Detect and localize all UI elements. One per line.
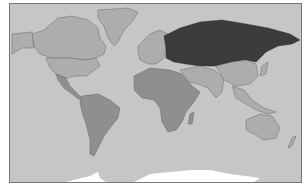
mexico-central-america [56,74,82,100]
europe [138,30,168,64]
south-america [80,94,120,156]
alaska [12,32,34,54]
greenland [98,8,138,46]
southeast-asia [232,86,276,114]
map-canvas [10,4,301,182]
russia [164,20,300,66]
japan [260,62,268,76]
new-zealand [288,136,296,148]
madagascar [188,112,194,124]
canada [32,16,106,60]
australia [246,114,280,140]
antarctic-peninsula [66,172,106,182]
usa [46,58,100,78]
antarctica [134,170,260,182]
world-map [9,3,302,183]
